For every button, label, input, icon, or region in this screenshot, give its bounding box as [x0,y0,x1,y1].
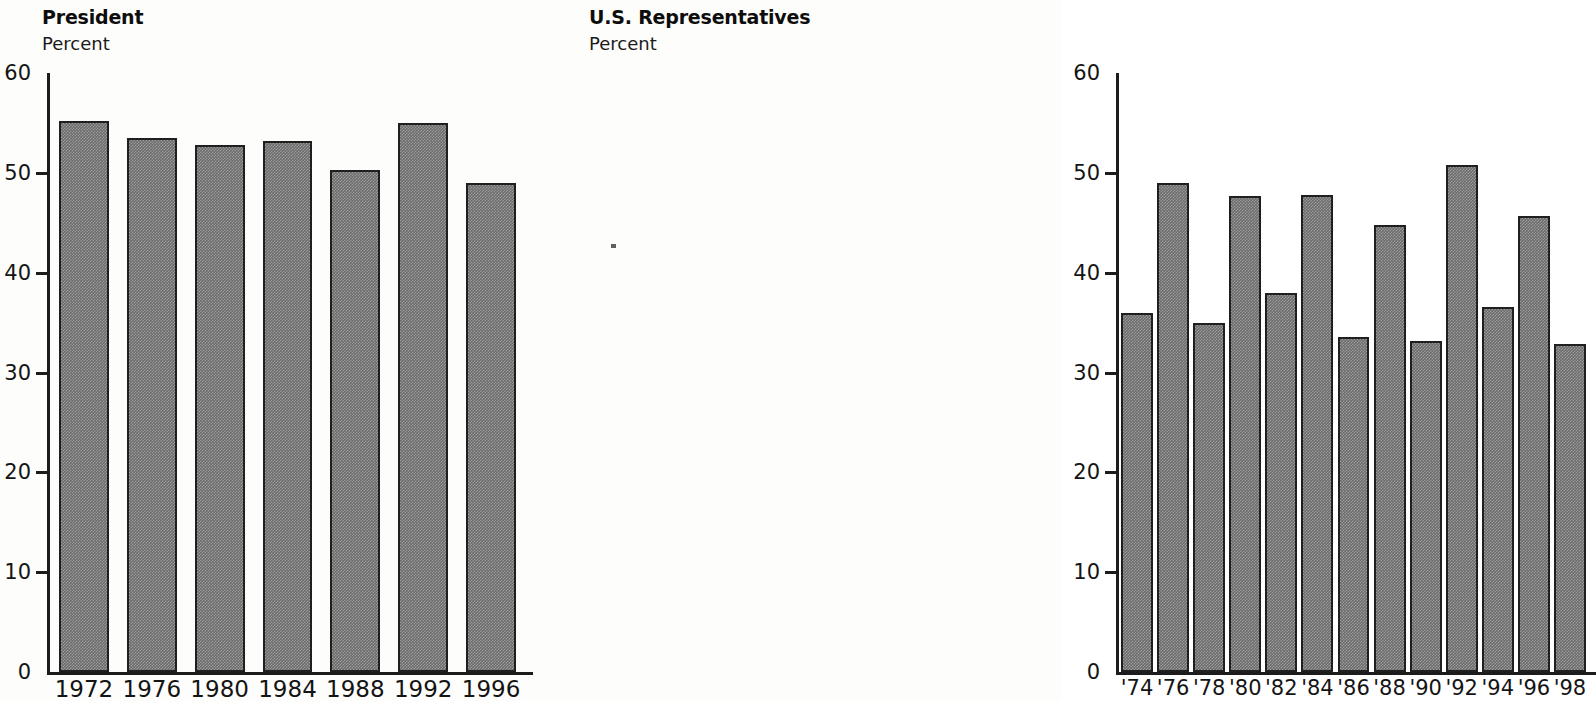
x-axis-tick-label: 1972 [55,678,114,701]
y-axis-tick-mark [1105,172,1116,175]
bar [1301,195,1333,672]
x-axis-tick-label: '94 [1482,678,1515,699]
chart-axis-unit-label-representatives: Percent [589,33,657,54]
bar-group-representatives [1119,73,1588,672]
x-axis-tick-label: '88 [1373,678,1406,699]
x-axis-tick-label: '96 [1518,678,1551,699]
bar [1374,225,1406,672]
x-axis-tick-label: '98 [1554,678,1587,699]
x-axis-tick-label: 1996 [462,678,521,701]
x-axis-tick-label: '92 [1445,678,1478,699]
y-axis-tick-mark [1105,571,1116,574]
x-axis-tick-label: 1976 [123,678,182,701]
y-axis-tick-mark [36,272,47,275]
x-axis-tick-label: '78 [1193,678,1226,699]
bar [195,145,245,672]
bar [1338,337,1370,672]
bar [263,141,313,672]
bar [1157,183,1189,672]
bar [1121,313,1153,672]
y-axis-tick-mark [36,372,47,375]
y-axis-tick-label: 50 [1073,162,1100,183]
x-axis-labels-representatives: '74'76'78'80'82'84'86'88'90'92'94'96'98 [1116,672,1588,701]
chart-panel-president: President Percent 1972197619801984198819… [0,0,536,701]
scan-artifact-speck [611,244,616,248]
bar [1482,307,1514,672]
bar [1446,165,1478,672]
plot-area-representatives: '74'76'78'80'82'84'86'88'90'92'94'96'98 … [1116,73,1588,672]
x-axis-tick-label: '76 [1157,678,1190,699]
y-axis-tick-label: 0 [1087,662,1100,683]
bar-group-president [50,73,525,672]
bar [1554,344,1586,672]
x-axis-labels-president: 1972197619801984198819921996 [47,672,525,701]
x-axis-tick-label: '74 [1121,678,1154,699]
x-axis-tick-label: 1980 [190,678,249,701]
y-axis-tick-label: 30 [1073,362,1100,383]
y-axis-tick-mark [1105,372,1116,375]
x-axis-tick-label: 1984 [258,678,317,701]
y-axis-tick-mark [36,571,47,574]
x-axis-tick-label: '84 [1301,678,1334,699]
bar [1193,323,1225,672]
y-axis-tick-label: 0 [18,662,31,683]
y-axis-tick-mark [1105,471,1116,474]
x-axis-tick-label: '80 [1229,678,1262,699]
y-axis-tick-mark [1105,272,1116,275]
bar [1518,216,1550,672]
x-axis-tick-label: 1988 [326,678,385,701]
chart-axis-unit-label-president: Percent [42,33,110,54]
chart-title-representatives: U.S. Representatives [589,6,810,28]
y-axis-tick-label: 10 [1073,562,1100,583]
y-axis-tick-label: 40 [4,262,31,283]
chart-title-president: President [42,6,143,28]
bar [1410,341,1442,672]
bar [466,183,516,672]
y-axis-tick-mark [36,471,47,474]
bar [59,121,109,672]
y-axis-tick-label: 60 [1073,63,1100,84]
bar [330,170,380,672]
y-axis-tick-label: 40 [1073,262,1100,283]
y-axis-tick-label: 20 [4,462,31,483]
x-axis-tick-label: '86 [1337,678,1370,699]
y-axis-tick-label: 10 [4,562,31,583]
bar [398,123,448,672]
x-axis-tick-label: 1992 [394,678,453,701]
bar [127,138,177,672]
bar [1229,196,1261,672]
x-axis-tick-label: '82 [1265,678,1298,699]
bar [1265,293,1297,672]
x-axis-tick-label: '90 [1409,678,1442,699]
y-axis-tick-mark [36,172,47,175]
plot-area-president: 1972197619801984198819921996 01020304050… [47,73,525,672]
y-axis-tick-label: 50 [4,162,31,183]
y-axis-tick-label: 60 [4,63,31,84]
y-axis-tick-label: 20 [1073,462,1100,483]
y-axis-tick-label: 30 [4,362,31,383]
chart-panel-representatives: U.S. Representatives Percent '74'76'78'8… [528,0,1062,701]
